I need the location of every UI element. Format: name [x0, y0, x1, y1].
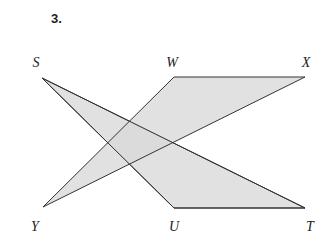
geometry-figure — [0, 0, 330, 242]
label-s: S — [33, 55, 40, 71]
label-x: X — [302, 55, 311, 71]
label-y: Y — [31, 219, 39, 235]
label-w: W — [166, 55, 178, 71]
label-u: U — [169, 219, 179, 235]
label-t: T — [306, 219, 314, 235]
